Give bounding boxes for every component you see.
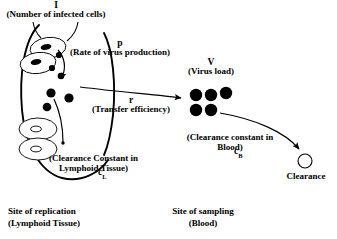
virus-load-description: (Virus load) [170, 67, 252, 77]
free-virion-1 [46, 88, 55, 97]
virus-load-particle-4 [190, 104, 202, 116]
lymphoid-clearance-endpoint [61, 141, 64, 144]
diagram-canvas [0, 0, 337, 239]
clearance-blood-symbol-sub: B [238, 152, 242, 159]
transfer-efficiency-description: (Transfer efficiency) [82, 105, 180, 115]
virus-production-description: (Rate of virus production) [63, 48, 177, 58]
clearance-blood-description-line2: Blood) [175, 143, 285, 153]
cleared-cell-nucleus [31, 126, 42, 132]
cleared-cell-nucleus [31, 146, 42, 152]
clearance-lymphoid-symbol-sub: L [102, 173, 106, 180]
virus-load-particle-3 [220, 87, 232, 99]
cleared-cell-1 [19, 118, 57, 140]
site-sampling-line2: (Blood) [158, 218, 248, 229]
clearance-lymphoid-description-line2: Lymphoid Tissue) [36, 164, 151, 174]
lymphoid-clearance-arrow [54, 99, 63, 142]
virus-load-particle-1 [190, 89, 202, 101]
free-virion-3 [43, 103, 52, 112]
clearance-circle [298, 154, 312, 168]
free-virion-2 [64, 93, 73, 102]
virus-load-particle-2 [205, 89, 217, 101]
site-replication-line1: Site of replication [8, 206, 76, 217]
clearance-outcome-label: Clearance [277, 172, 335, 182]
site-sampling-line1: Site of sampling [158, 206, 248, 217]
virus-dynamics-diagram: I (Number of infected cells) p (Rate of … [0, 0, 337, 239]
site-replication-line2: (Lymphoid Tissue) [8, 218, 80, 229]
infected-cells-description: (Number of infected cells) [1, 10, 111, 20]
infected-cells-pointer-right [67, 22, 78, 41]
virus-load-particle-5 [205, 104, 217, 116]
budding-virion-2 [49, 65, 55, 71]
